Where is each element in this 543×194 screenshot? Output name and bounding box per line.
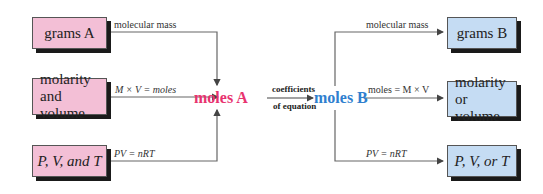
label-moles-mv: moles = M × V xyxy=(368,84,429,95)
label-of-equation: of equation xyxy=(273,101,316,111)
box-grams-b-label: grams B xyxy=(457,25,507,42)
label-molecular-mass-a: molecular mass xyxy=(114,19,176,30)
label-molecular-mass-b: molecular mass xyxy=(366,19,428,30)
box-grams-a-label: grams A xyxy=(44,25,94,42)
box-molarity-line1: molarity xyxy=(40,71,91,88)
label-pv-nrt-a: PV = nRT xyxy=(114,148,154,159)
box-molarity-b-line2: or volume xyxy=(455,91,516,125)
box-molarity-volume-a: molarity and volume xyxy=(32,78,107,115)
box-molarity-volume-b: molarity or volume xyxy=(447,81,517,117)
node-moles-b: moles B xyxy=(314,89,368,107)
label-coefficients: coefficients xyxy=(272,84,315,94)
box-molarity-b-line1: molarity xyxy=(455,74,506,91)
box-pvt-b-label: P, V, or T xyxy=(455,153,510,170)
box-pvt-b: P, V, or T xyxy=(447,145,517,177)
label-pv-nrt-b: PV = nRT xyxy=(366,148,406,159)
box-pvt-a: P, V, and T xyxy=(32,145,107,177)
box-molarity-line2: and volume xyxy=(40,88,106,122)
box-grams-a: grams A xyxy=(32,17,107,49)
node-moles-a: moles A xyxy=(194,89,248,107)
box-grams-b: grams B xyxy=(447,17,517,49)
label-mv-moles: M × V = moles xyxy=(115,84,176,95)
box-pvt-a-label: P, V, and T xyxy=(37,153,101,170)
